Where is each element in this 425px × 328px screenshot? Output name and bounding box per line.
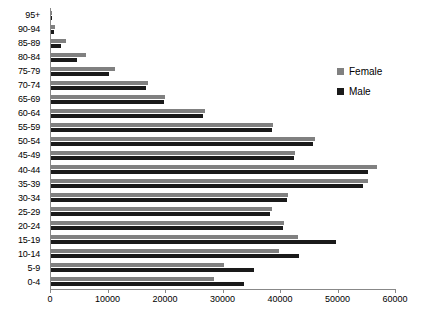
category-label: 45-49 xyxy=(0,148,44,162)
category-label: 75-79 xyxy=(0,64,44,78)
bar-female xyxy=(51,81,148,85)
category-label: 55-59 xyxy=(0,120,44,134)
bar-female xyxy=(51,137,315,141)
bar-male xyxy=(51,226,283,230)
bar-group xyxy=(51,8,396,22)
category-label: 20-24 xyxy=(0,219,44,233)
category-label: 5-9 xyxy=(0,261,44,275)
category-label: 30-34 xyxy=(0,191,44,205)
category-label: 95+ xyxy=(0,8,44,22)
bar-group xyxy=(51,148,396,162)
bar-group xyxy=(51,36,396,50)
bar-group xyxy=(51,219,396,233)
bar-female xyxy=(51,277,214,281)
category-label: 65-69 xyxy=(0,92,44,106)
category-label: 35-39 xyxy=(0,177,44,191)
bar-group xyxy=(51,205,396,219)
bar-female xyxy=(51,207,272,211)
legend-swatch-icon xyxy=(337,88,344,95)
plot-area xyxy=(50,8,396,290)
category-label: 70-74 xyxy=(0,78,44,92)
legend-swatch-icon xyxy=(337,68,344,75)
value-tick-label: 60000 xyxy=(382,294,407,304)
bar-group xyxy=(51,275,396,289)
bar-female xyxy=(51,263,224,267)
category-axis: 95+90-9485-8980-8475-7970-7465-6960-6455… xyxy=(0,8,44,289)
bar-group xyxy=(51,177,396,191)
bar-female xyxy=(51,221,284,225)
bar-group xyxy=(51,134,396,148)
bar-female xyxy=(51,123,273,127)
legend-item-male[interactable]: Male xyxy=(337,86,417,97)
value-tick-label: 0 xyxy=(47,294,52,304)
bar-female xyxy=(51,109,205,113)
category-label: 25-29 xyxy=(0,205,44,219)
bar-group xyxy=(51,261,396,275)
bar-male xyxy=(51,254,299,258)
axis-tick xyxy=(280,289,281,293)
axis-tick xyxy=(395,289,396,293)
bar-female xyxy=(51,179,368,183)
legend-label: Male xyxy=(349,86,371,97)
category-label: 60-64 xyxy=(0,106,44,120)
bar-female xyxy=(51,11,52,15)
category-label: 50-54 xyxy=(0,134,44,148)
bar-male xyxy=(51,156,294,160)
bar-male xyxy=(51,44,61,48)
category-label: 15-19 xyxy=(0,233,44,247)
bar-male xyxy=(51,170,368,174)
bar-male xyxy=(51,72,109,76)
bar-male xyxy=(51,30,54,34)
axis-tick xyxy=(223,289,224,293)
bar-male xyxy=(51,184,363,188)
value-tick-label: 50000 xyxy=(325,294,350,304)
bar-group xyxy=(51,233,396,247)
legend-item-female[interactable]: Female xyxy=(337,66,417,77)
bar-male xyxy=(51,240,336,244)
bar-female xyxy=(51,151,295,155)
bar-male xyxy=(51,86,146,90)
value-tick-label: 10000 xyxy=(95,294,120,304)
bar-female xyxy=(51,235,298,239)
category-label: 10-14 xyxy=(0,247,44,261)
bar-group xyxy=(51,191,396,205)
bar-male xyxy=(51,128,272,132)
bar-female xyxy=(51,165,377,169)
bar-male xyxy=(51,268,254,272)
population-pyramid-chart: 95+90-9485-8980-8475-7970-7465-6960-6455… xyxy=(0,0,425,328)
bar-female xyxy=(51,95,165,99)
category-label: 40-44 xyxy=(0,163,44,177)
value-axis-tick-marks xyxy=(50,289,395,293)
bar-female xyxy=(51,193,288,197)
axis-tick xyxy=(108,289,109,293)
axis-tick xyxy=(165,289,166,293)
value-tick-label: 30000 xyxy=(210,294,235,304)
bar-group xyxy=(51,22,396,36)
bar-male xyxy=(51,212,270,216)
bar-female xyxy=(51,67,115,71)
bar-female xyxy=(51,249,279,253)
axis-tick xyxy=(338,289,339,293)
bar-male xyxy=(51,114,203,118)
bar-male xyxy=(51,58,77,62)
category-label: 85-89 xyxy=(0,36,44,50)
bar-female xyxy=(51,53,86,57)
bar-rows xyxy=(51,8,396,289)
category-label: 0-4 xyxy=(0,275,44,289)
bar-male xyxy=(51,282,244,286)
value-axis-labels: 0100002000030000400005000060000 xyxy=(0,294,425,308)
category-label: 80-84 xyxy=(0,50,44,64)
axis-tick xyxy=(50,289,51,293)
category-label: 90-94 xyxy=(0,22,44,36)
bar-female xyxy=(51,25,55,29)
value-tick-label: 40000 xyxy=(267,294,292,304)
bar-group xyxy=(51,106,396,120)
bar-group xyxy=(51,120,396,134)
bar-male xyxy=(51,100,164,104)
chart-legend: FemaleMale xyxy=(337,66,417,106)
bar-group xyxy=(51,163,396,177)
value-tick-label: 20000 xyxy=(152,294,177,304)
bar-group xyxy=(51,50,396,64)
bar-male xyxy=(51,198,287,202)
bar-female xyxy=(51,39,66,43)
